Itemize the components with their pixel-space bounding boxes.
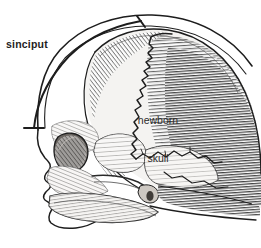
ear-canal-opening	[146, 191, 153, 201]
label-newborn-line1: newborn	[129, 114, 187, 127]
label-newborn-line2: skull	[129, 152, 187, 165]
label-newborn-skull: newborn skull	[129, 89, 187, 189]
newborn-skull-figure: sinciput newborn skull	[0, 0, 261, 248]
label-sinciput: sinciput	[6, 38, 48, 50]
